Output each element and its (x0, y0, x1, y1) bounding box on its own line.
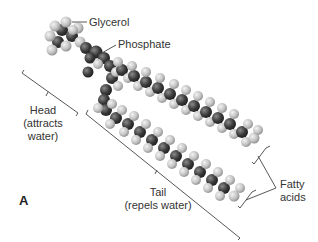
glycerol-label: Glycerol (89, 16, 129, 29)
head-label: Head (attracts water) (18, 104, 68, 143)
head-label-line2: (attracts (18, 117, 68, 130)
panel-label: A (19, 193, 28, 208)
head-label-line3: water) (18, 130, 68, 143)
tail-label-line1: Tail (118, 186, 198, 199)
phosphate-group (80, 42, 123, 106)
head-label-line1: Head (18, 104, 68, 117)
fatty-acids-label-line1: Fatty (280, 178, 306, 191)
tail-label-line2: (repels water) (118, 199, 198, 212)
fatty-acids-label: Fatty acids (280, 178, 306, 204)
phospholipid-diagram: Glycerol Phosphate Head (attracts water)… (0, 0, 318, 242)
fatty-acids-label-line2: acids (280, 191, 306, 204)
phosphate-label: Phosphate (118, 38, 171, 51)
tail-label: Tail (repels water) (118, 186, 198, 212)
